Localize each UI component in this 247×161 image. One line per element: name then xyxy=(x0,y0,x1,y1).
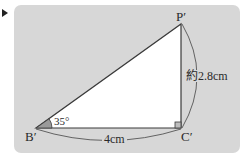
triangle-shape xyxy=(36,24,181,128)
vertex-label-b: B′ xyxy=(25,130,37,143)
base-length-label: 4cm xyxy=(102,133,127,145)
angle-label: 35° xyxy=(54,116,69,127)
vertex-label-p: P′ xyxy=(176,10,186,23)
right-angle-mark xyxy=(175,122,181,128)
height-length-label: 約2.8cm xyxy=(185,70,229,82)
vertex-label-c: C′ xyxy=(181,130,193,143)
angle-mark xyxy=(36,119,52,128)
